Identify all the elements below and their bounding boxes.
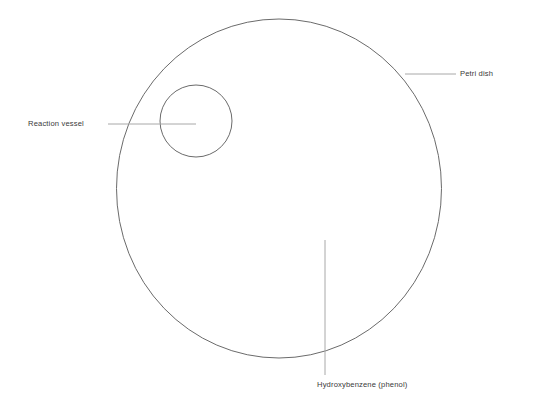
reaction-vessel-outline bbox=[160, 85, 232, 157]
diagram-canvas: Petri dish Reaction vessel Hydroxybenzen… bbox=[0, 0, 533, 409]
petri-dish-outline bbox=[117, 19, 442, 358]
diagram-vector-layer bbox=[0, 0, 533, 409]
label-hydroxybenzene-phenol: Hydroxybenzene (phenol) bbox=[317, 381, 407, 389]
label-petri-dish: Petri dish bbox=[460, 70, 493, 78]
label-reaction-vessel: Reaction vessel bbox=[28, 120, 84, 128]
